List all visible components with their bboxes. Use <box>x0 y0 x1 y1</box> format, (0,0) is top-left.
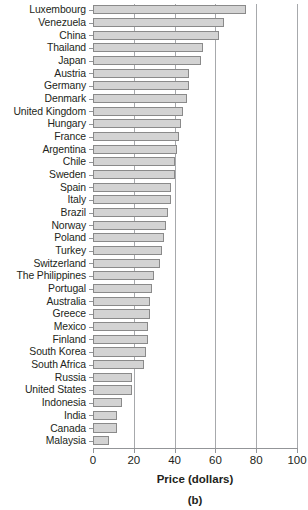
category-label: Luxembourg <box>29 5 86 15</box>
plot-area: LuxembourgVenezuelaChinaThailandJapanAus… <box>0 0 308 455</box>
bar <box>93 373 132 382</box>
bar <box>93 69 189 78</box>
bar-row: Austria <box>93 67 297 80</box>
category-label: Mexico <box>54 322 86 332</box>
bar <box>93 183 171 192</box>
category-label: Thailand <box>47 43 86 53</box>
category-label: Chile <box>63 157 86 167</box>
bar-row: Portugal <box>93 283 297 296</box>
category-label: Spain <box>60 183 86 193</box>
bar-row: Argentina <box>93 143 297 156</box>
bar <box>93 195 171 204</box>
bar <box>93 233 164 242</box>
bar <box>93 411 117 420</box>
bar <box>93 284 152 293</box>
bar <box>93 335 148 344</box>
category-label: Japan <box>58 56 86 66</box>
bar <box>93 259 160 268</box>
category-label: Italy <box>67 195 86 205</box>
bar-chart-figure: LuxembourgVenezuelaChinaThailandJapanAus… <box>0 0 308 510</box>
category-label: Norway <box>51 221 86 231</box>
bar <box>93 81 189 90</box>
bar-row: Australia <box>93 295 297 308</box>
bar <box>93 18 224 27</box>
category-label: China <box>59 30 86 40</box>
bar <box>93 145 177 154</box>
x-tick-label-100: 100 <box>287 455 306 467</box>
bar-row: Finland <box>93 333 297 346</box>
bar <box>93 360 144 369</box>
bar <box>93 5 246 14</box>
bar <box>93 132 179 141</box>
bar-row: Turkey <box>93 245 297 258</box>
category-label: South Africa <box>31 360 86 370</box>
x-tick-label-40: 40 <box>168 455 181 467</box>
bar-row: United States <box>93 384 297 397</box>
category-label: South Korea <box>29 347 86 357</box>
x-tick-60 <box>215 448 216 453</box>
bar <box>93 297 150 306</box>
bar-row: China <box>93 29 297 42</box>
category-label: Poland <box>54 233 86 243</box>
bar-row: The Philippines <box>93 270 297 283</box>
x-tick-0 <box>93 448 94 453</box>
category-label: Austria <box>54 68 86 78</box>
x-tick-label-20: 20 <box>127 455 140 467</box>
bar <box>93 322 148 331</box>
category-label: Russia <box>55 373 86 383</box>
bar <box>93 221 166 230</box>
bar-row: Norway <box>93 219 297 232</box>
category-label: Finland <box>53 335 86 345</box>
x-tick-80 <box>256 448 257 453</box>
category-label: Canada <box>50 423 86 433</box>
bar <box>93 347 146 356</box>
bar <box>93 94 187 103</box>
bar-row: Sweden <box>93 169 297 182</box>
bar-row: Thailand <box>93 42 297 55</box>
bar-row: Switzerland <box>93 257 297 270</box>
bar-row: Poland <box>93 232 297 245</box>
category-label: Portugal <box>48 284 86 294</box>
x-axis-title: Price (dollars) <box>93 473 297 485</box>
bar <box>93 56 201 65</box>
category-label: United Kingdom <box>13 107 86 117</box>
bar-row: Japan <box>93 55 297 68</box>
category-label: India <box>64 411 86 421</box>
category-label: Turkey <box>55 246 86 256</box>
bar-row: Brazil <box>93 207 297 220</box>
bar-row: Hungary <box>93 118 297 131</box>
x-tick-20 <box>134 448 135 453</box>
bar-row: France <box>93 131 297 144</box>
bar <box>93 385 132 394</box>
category-label: Indonesia <box>42 398 86 408</box>
bar-row: Germany <box>93 80 297 93</box>
category-label: Australia <box>46 297 86 307</box>
category-label: Germany <box>44 81 86 91</box>
bar <box>93 31 219 40</box>
x-axis-line <box>93 448 297 449</box>
bar-row: Greece <box>93 308 297 321</box>
bar-row: South Korea <box>93 346 297 359</box>
bar <box>93 208 168 217</box>
bar-row: India <box>93 410 297 423</box>
bar <box>93 119 181 128</box>
category-label: Hungary <box>47 119 86 129</box>
bar <box>93 246 162 255</box>
x-tick-100 <box>297 448 298 453</box>
bar <box>93 157 175 166</box>
bar <box>93 107 183 116</box>
category-label: Malaysia <box>46 436 86 446</box>
bar <box>93 398 122 407</box>
bar-rows: LuxembourgVenezuelaChinaThailandJapanAus… <box>93 4 297 448</box>
category-label: Greece <box>53 309 86 319</box>
bar-row: South Africa <box>93 359 297 372</box>
bar <box>93 43 203 52</box>
category-label: United States <box>25 385 86 395</box>
bar-row: Italy <box>93 194 297 207</box>
category-label: The Philippines <box>16 271 86 281</box>
category-label: Brazil <box>61 208 86 218</box>
bar-row: Malaysia <box>93 435 297 448</box>
bar-row: Luxembourg <box>93 4 297 17</box>
bar <box>93 436 109 445</box>
bar-row: Denmark <box>93 93 297 106</box>
